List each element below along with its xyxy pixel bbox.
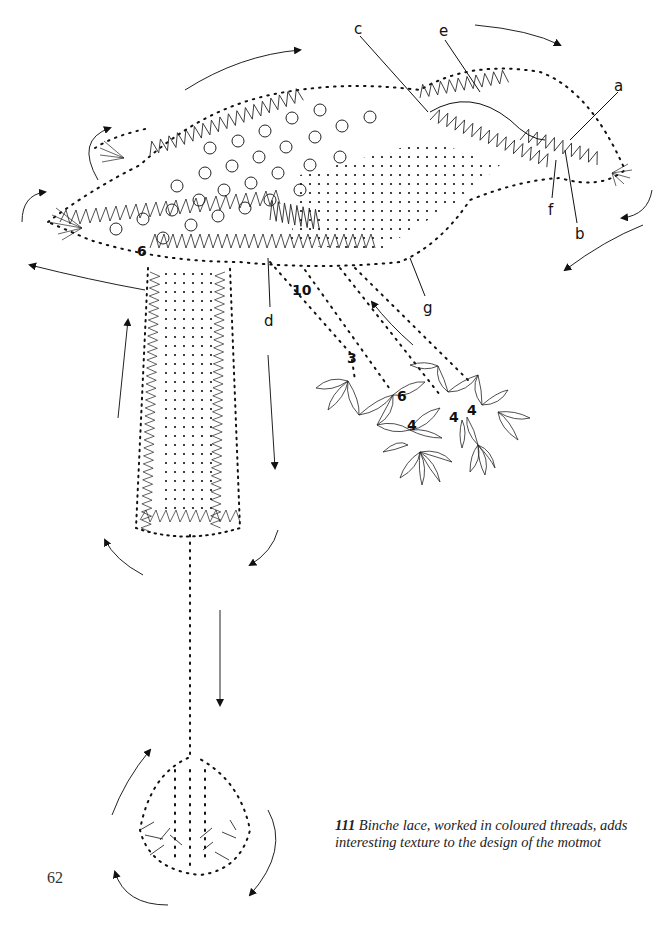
feet-petals — [316, 363, 530, 485]
label-g: g — [423, 301, 433, 316]
pair-count: 6 — [137, 244, 147, 258]
label-f: f — [548, 203, 553, 218]
page-number: 62 — [47, 869, 63, 887]
figure-number: 111 — [335, 817, 355, 833]
label-a: a — [614, 79, 623, 94]
pair-count: 10 — [292, 283, 311, 297]
pair-count: 3 — [347, 351, 357, 365]
label-c: c — [354, 22, 362, 37]
pair-count: 4 — [407, 418, 417, 432]
motmot-lace-pricking-diagram — [0, 0, 656, 927]
caption-text: Binche lace, worked in coloured threads,… — [335, 817, 628, 850]
label-b: b — [575, 227, 585, 242]
figure-caption: 111 Binche lace, worked in coloured thre… — [335, 817, 635, 851]
pair-count: 4 — [467, 403, 477, 417]
pin-grid-belly — [290, 140, 500, 250]
label-e: e — [439, 24, 448, 39]
tail-racket — [140, 758, 250, 875]
label-d: d — [264, 314, 274, 329]
tail — [136, 268, 240, 537]
pair-count: 4 — [449, 410, 459, 424]
pair-count: 6 — [397, 389, 407, 403]
